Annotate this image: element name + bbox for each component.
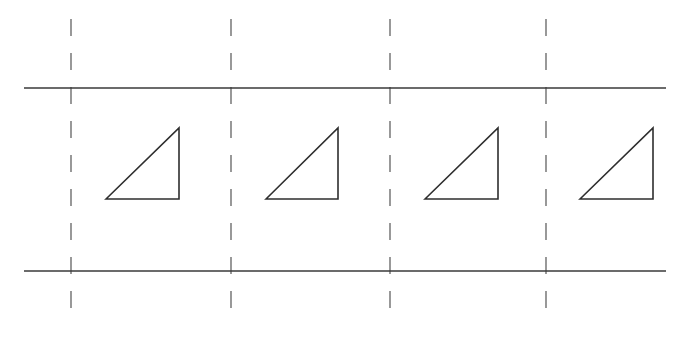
- triangles: [106, 128, 653, 199]
- triangle-1-shape: [106, 128, 179, 199]
- repeating-triangle-diagram: [0, 0, 681, 338]
- triangle-3-shape: [425, 128, 498, 199]
- triangle-4-shape: [580, 128, 653, 199]
- horizontal-rails: [24, 88, 666, 271]
- triangle-2-shape: [266, 128, 338, 199]
